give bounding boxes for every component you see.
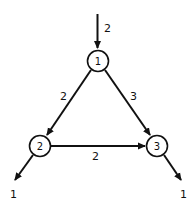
edge-2-to-sink <box>15 155 33 180</box>
node-3-label: 3 <box>154 141 160 152</box>
edge-1-to-3 <box>105 70 150 135</box>
edge-label-source-to-1: 2 <box>104 22 111 35</box>
flow-network-diagram: 2 2 3 2 1 1 1 2 3 <box>0 0 193 210</box>
edge-label-2-to-3: 2 <box>92 150 99 163</box>
node-2-label: 2 <box>37 141 43 152</box>
node-1-label: 1 <box>95 56 101 67</box>
edge-label-1-to-2: 2 <box>60 90 67 103</box>
node-1: 1 <box>88 51 109 72</box>
edge-label-1-to-3: 3 <box>130 90 137 103</box>
edge-label-2-to-sink: 1 <box>10 188 17 201</box>
node-2: 2 <box>30 136 51 157</box>
edge-1-to-2 <box>47 70 91 135</box>
edge-label-3-to-sink: 1 <box>180 188 187 201</box>
edge-3-to-sink <box>164 155 181 180</box>
node-3: 3 <box>147 136 168 157</box>
